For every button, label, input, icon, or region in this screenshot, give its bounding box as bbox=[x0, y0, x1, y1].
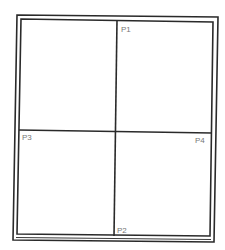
point-label-p4: P4 bbox=[195, 136, 205, 145]
window-frame-diagram: P1 P2 P3 P4 bbox=[0, 0, 225, 250]
point-label-p1: P1 bbox=[121, 25, 131, 34]
point-label-p2: P2 bbox=[117, 226, 127, 235]
point-label-p3: P3 bbox=[22, 133, 32, 142]
vertical-divider bbox=[114, 20, 117, 236]
bottom-rail-line bbox=[16, 238, 211, 240]
